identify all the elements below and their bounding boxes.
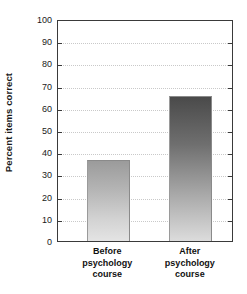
y-tick-label: 70 [42,82,52,92]
x-tick-label: Afterpsychologycourse [165,246,215,281]
y-tick-mark-right [228,132,232,133]
plot-area [57,20,233,242]
x-tick-label-line: psychology [82,258,132,270]
x-axis-tick-labels: BeforepsychologycourseAfterpsychologycou… [57,246,233,294]
y-tick-label: 0 [47,237,52,247]
y-axis-title: Percent items correct [0,0,18,245]
gridline [58,88,232,89]
y-tick-mark [58,221,62,222]
y-tick-label: 30 [42,170,52,180]
after-bar [169,96,212,241]
x-tick-label-line: course [165,269,215,281]
y-tick-mark-right [228,110,232,111]
y-tick-mark [58,43,62,44]
y-axis-title-text: Percent items correct [4,73,15,172]
x-tick-label-line: course [82,269,132,281]
y-tick-mark-right [228,176,232,177]
y-tick-label: 40 [42,148,52,158]
x-tick-label-line: psychology [165,258,215,270]
y-tick-mark-right [228,199,232,200]
y-tick-mark [58,110,62,111]
y-tick-mark [58,88,62,89]
y-tick-label: 50 [42,126,52,136]
y-tick-mark-right [228,65,232,66]
y-axis-tick-labels: 0102030405060708090100 [18,20,56,242]
y-tick-label: 10 [42,215,52,225]
y-tick-mark [58,65,62,66]
y-tick-mark-right [228,154,232,155]
y-tick-label: 100 [37,15,52,25]
gridline [58,65,232,66]
y-tick-label: 60 [42,104,52,114]
y-tick-mark-right [228,88,232,89]
y-tick-mark-right [228,221,232,222]
y-tick-label: 80 [42,59,52,69]
y-tick-mark [58,199,62,200]
before-bar [87,160,130,241]
y-tick-mark [58,176,62,177]
y-tick-mark [58,154,62,155]
y-tick-label: 90 [42,37,52,47]
y-tick-label: 20 [42,193,52,203]
x-tick-label-line: After [165,246,215,258]
bar-chart: Percent items correct 010203040506070809… [0,0,247,294]
y-tick-mark [58,132,62,133]
x-tick-label-line: Before [82,246,132,258]
gridline [58,43,232,44]
x-tick-label: Beforepsychologycourse [82,246,132,281]
y-tick-mark-right [228,43,232,44]
